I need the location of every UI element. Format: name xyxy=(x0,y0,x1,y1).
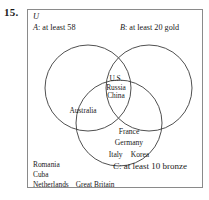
region-item: Italy xyxy=(109,149,123,160)
problem-number: 15. xyxy=(4,6,18,18)
set-b-label: B: at least 20 gold xyxy=(120,24,179,33)
region-item: Korea xyxy=(131,149,150,160)
set-a-label: A: at least 58 xyxy=(33,24,76,33)
region-a-c-items: Australia xyxy=(60,107,106,116)
region-item: China xyxy=(96,92,136,101)
region-item: Australia xyxy=(60,107,106,116)
region-item: Germany xyxy=(100,137,158,148)
region-item: France xyxy=(100,126,158,137)
region-item: Great Britain xyxy=(76,180,115,189)
region-c-only-items: France Germany ItalyKorea xyxy=(100,126,158,160)
universe-symbol: U xyxy=(33,12,39,21)
region-item-row: NetherlandsGreat Britain xyxy=(33,180,115,190)
venn-diagram-box: U A: at least 58 B: at least 20 gold C: … xyxy=(27,9,203,188)
set-a-description: : at least 58 xyxy=(38,23,76,32)
universe-label: U xyxy=(33,13,39,22)
set-c-description: : at least 10 bronze xyxy=(119,161,187,171)
set-b-description: : at least 20 gold xyxy=(125,23,179,32)
set-c-label: C: at least 10 bronze xyxy=(113,162,187,171)
region-item: Cuba xyxy=(33,170,115,180)
region-item: Romania xyxy=(33,160,115,170)
region-a-b-c-items: U.S. Russia China xyxy=(96,75,136,101)
region-item-row: ItalyKorea xyxy=(100,149,158,160)
region-item: Netherlands xyxy=(33,180,69,189)
region-outside-items: Romania Cuba NetherlandsGreat Britain xyxy=(33,160,115,190)
